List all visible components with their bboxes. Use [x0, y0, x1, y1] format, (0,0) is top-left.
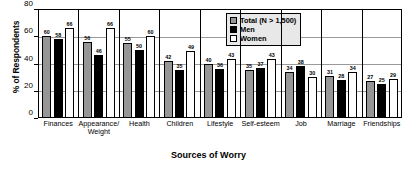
bar	[267, 59, 276, 118]
x-axis-category-label: Appearance/ Weight	[78, 120, 119, 137]
bar-value-label: 66	[107, 21, 113, 28]
bar-value-label: 27	[367, 74, 373, 81]
bar-value-label: 50	[136, 43, 142, 50]
bar	[164, 61, 173, 118]
bar-wrapper: 49	[186, 9, 195, 118]
x-axis-category-label: Health	[119, 120, 159, 137]
bar-value-label: 31	[327, 69, 333, 76]
bar	[94, 55, 103, 118]
bar	[389, 79, 398, 119]
bar-value-label: 43	[269, 52, 275, 59]
bar-group: 605866	[38, 9, 78, 118]
bar-wrapper: 31	[325, 9, 334, 118]
legend-label: Men	[240, 25, 255, 34]
bar	[366, 81, 375, 118]
x-axis-category-label: Children	[160, 120, 200, 137]
bar-wrapper: 25	[377, 9, 386, 118]
chart-container: % of Respondents 60586656466655506042354…	[0, 0, 417, 171]
y-axis-tick-mark	[34, 91, 38, 92]
bar	[83, 42, 92, 118]
bar-wrapper: 66	[65, 9, 74, 118]
bar-value-label: 29	[390, 72, 396, 79]
bar	[296, 66, 305, 118]
x-axis-category-label: Marriage	[321, 120, 361, 137]
legend-swatch-women	[230, 35, 237, 42]
y-axis-tick-mark	[34, 36, 38, 37]
bar-group: 272529	[362, 9, 402, 118]
x-axis-category-labels: FinancesAppearance/ WeightHealthChildren…	[38, 120, 402, 137]
bar	[325, 76, 334, 118]
bar-wrapper: 28	[337, 9, 346, 118]
group-separator	[119, 9, 120, 118]
bar	[348, 72, 357, 118]
bar	[175, 70, 184, 118]
x-axis-category-label: Lifestyle	[200, 120, 240, 137]
bar-value-label: 58	[55, 32, 61, 39]
x-axis-category-label: Job	[281, 120, 321, 137]
bar-value-label: 60	[147, 29, 153, 36]
y-axis-tick-mark	[34, 118, 38, 119]
bar-value-label: 37	[257, 61, 263, 68]
bar-wrapper: 46	[94, 9, 103, 118]
group-separator	[159, 9, 160, 118]
legend-swatch-total	[230, 17, 237, 24]
bar	[308, 77, 317, 118]
bar	[106, 28, 115, 118]
bar-value-label: 36	[217, 62, 223, 69]
chart-legend: Total (N > 1,500)MenWomen	[226, 13, 301, 46]
group-separator	[78, 9, 79, 118]
bar-wrapper: 34	[348, 9, 357, 118]
bar-group: 564666	[78, 9, 118, 118]
bar-wrapper: 29	[389, 9, 398, 118]
bar-value-label: 25	[379, 77, 385, 84]
bar	[54, 39, 63, 118]
bar-value-label: 34	[350, 65, 356, 72]
bar	[227, 59, 236, 118]
legend-label: Women	[240, 34, 267, 43]
x-axis-title: Sources of Worry	[0, 150, 417, 160]
bar-group: 423549	[159, 9, 199, 118]
bar-wrapper: 55	[123, 9, 132, 118]
bar	[135, 50, 144, 118]
group-separator	[321, 9, 322, 118]
bar-value-label: 40	[206, 57, 212, 64]
bar-value-label: 42	[165, 54, 171, 61]
bar	[377, 84, 386, 118]
bar	[65, 28, 74, 118]
bar-value-label: 55	[125, 36, 131, 43]
bar	[186, 51, 195, 118]
bar-value-label: 30	[309, 70, 315, 77]
bar	[215, 69, 224, 118]
bar-wrapper: 56	[83, 9, 92, 118]
y-axis-tick-mark	[34, 64, 38, 65]
bar-wrapper: 60	[146, 9, 155, 118]
group-separator	[362, 9, 363, 118]
legend-swatch-men	[230, 26, 237, 33]
bar-value-label: 49	[188, 44, 194, 51]
x-axis-category-label: Finances	[38, 120, 78, 137]
legend-label: Total (N > 1,500)	[240, 16, 296, 25]
y-axis-tick-mark	[34, 9, 38, 10]
y-axis-tick-label: 40	[0, 54, 33, 63]
bar-wrapper: 50	[135, 9, 144, 118]
group-separator	[281, 9, 282, 118]
bar-value-label: 34	[286, 65, 292, 72]
bar-wrapper: 40	[204, 9, 213, 118]
bar	[256, 68, 265, 118]
y-axis-tick-label: 80	[0, 0, 33, 8]
bar-value-label: 43	[228, 52, 234, 59]
group-separator	[200, 9, 201, 118]
bar	[42, 36, 51, 118]
bar-group: 312834	[321, 9, 361, 118]
bar-group: 555060	[119, 9, 159, 118]
bar-value-label: 35	[246, 63, 252, 70]
bar-wrapper: 58	[54, 9, 63, 118]
bar	[245, 70, 254, 118]
bar-wrapper: 36	[215, 9, 224, 118]
y-axis-tick-label: 0	[0, 108, 33, 117]
y-axis-tick-label: 20	[0, 81, 33, 90]
bar-value-label: 60	[44, 29, 50, 36]
x-axis-category-label: Friendships	[362, 120, 402, 137]
bar-wrapper: 42	[164, 9, 173, 118]
bar-wrapper: 27	[366, 9, 375, 118]
